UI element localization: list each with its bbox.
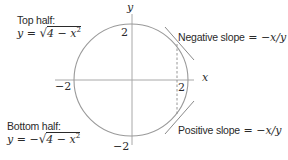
x-axis-label: x	[202, 72, 208, 83]
tick-x-neg: −2	[55, 81, 71, 92]
bottom-half-eq-exponent: 2	[76, 132, 80, 140]
positive-slope-eq: = −x/y	[240, 124, 282, 137]
top-half-equation: y = √4 − x2	[17, 26, 81, 40]
negative-slope-eq: = −x/y	[245, 31, 287, 44]
negative-slope-label: Negative slope = −x/y	[178, 28, 286, 44]
bottom-half-eq-radicand: 4 − x	[46, 133, 75, 146]
top-half-title: Top half:	[17, 15, 81, 26]
positive-slope-label: Positive slope = −x/y	[178, 121, 282, 137]
top-half-eq-lhs: y =	[17, 27, 39, 40]
bottom-half-equation: y = −√4 − x2	[7, 132, 80, 146]
y-axis-label: y	[127, 2, 133, 13]
tick-x-pos: 2	[178, 82, 185, 93]
top-half-caption: Top half: y = √4 − x2	[17, 15, 81, 39]
circle-diagram: y x 2 −2 −2 2 Top half: y = √4 − x2 Bott…	[0, 0, 288, 160]
tick-y-pos: 2	[121, 27, 128, 38]
bottom-half-title: Bottom half:	[7, 121, 80, 132]
top-half-eq-exponent: 2	[77, 26, 81, 34]
positive-slope-text: Positive slope	[178, 124, 240, 136]
negative-slope-text: Negative slope	[178, 31, 245, 43]
tick-y-neg: −2	[113, 141, 129, 152]
bottom-half-eq-lhs: y = −	[7, 133, 39, 146]
top-half-eq-radicand: 4 − x	[47, 27, 76, 40]
bottom-half-caption: Bottom half: y = −√4 − x2	[7, 121, 80, 145]
